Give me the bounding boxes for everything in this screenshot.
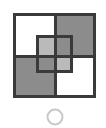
geometric-figure-svg xyxy=(0,0,106,128)
figure-root: Overlapping squares with circle xyxy=(0,0,106,128)
